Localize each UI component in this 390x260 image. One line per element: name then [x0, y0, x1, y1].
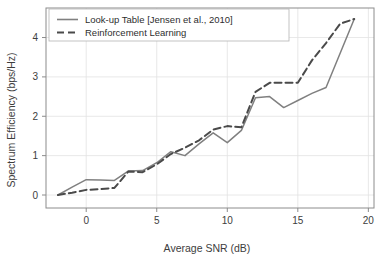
y-tick-labels: 01234	[32, 32, 38, 200]
x-tick-label: 20	[363, 215, 375, 226]
x-axis-label: Average SNR (dB)	[164, 242, 251, 254]
x-tick-label: 5	[154, 215, 160, 226]
chart-legend: Look-up Table [Jensen et al., 2010] Rein…	[49, 9, 289, 41]
tick-marks	[42, 38, 368, 212]
y-tick-label: 2	[32, 111, 38, 122]
series-line-reinforcement-learning	[58, 19, 354, 195]
series-line-lookup-table	[58, 19, 354, 195]
y-axis-label: Spectrum Efficiency (bps/Hz)	[5, 52, 17, 187]
x-tick-labels: 05101520	[83, 215, 374, 226]
legend-label-lookup-table: Look-up Table [Jensen et al., 2010]	[85, 14, 233, 25]
x-tick-label: 15	[292, 215, 304, 226]
y-tick-label: 1	[32, 150, 38, 161]
y-tick-label: 0	[32, 190, 38, 201]
chart-figure: 05101520 01234 Average SNR (dB) Spectrum…	[0, 0, 390, 260]
legend-label-reinforcement-learning: Reinforcement Learning	[85, 27, 186, 38]
line-chart: 05101520 01234 Average SNR (dB) Spectrum…	[0, 0, 390, 260]
x-tick-label: 10	[222, 215, 234, 226]
y-tick-label: 4	[32, 32, 38, 43]
x-tick-label: 0	[83, 215, 89, 226]
data-series	[58, 19, 354, 195]
y-tick-label: 3	[32, 71, 38, 82]
